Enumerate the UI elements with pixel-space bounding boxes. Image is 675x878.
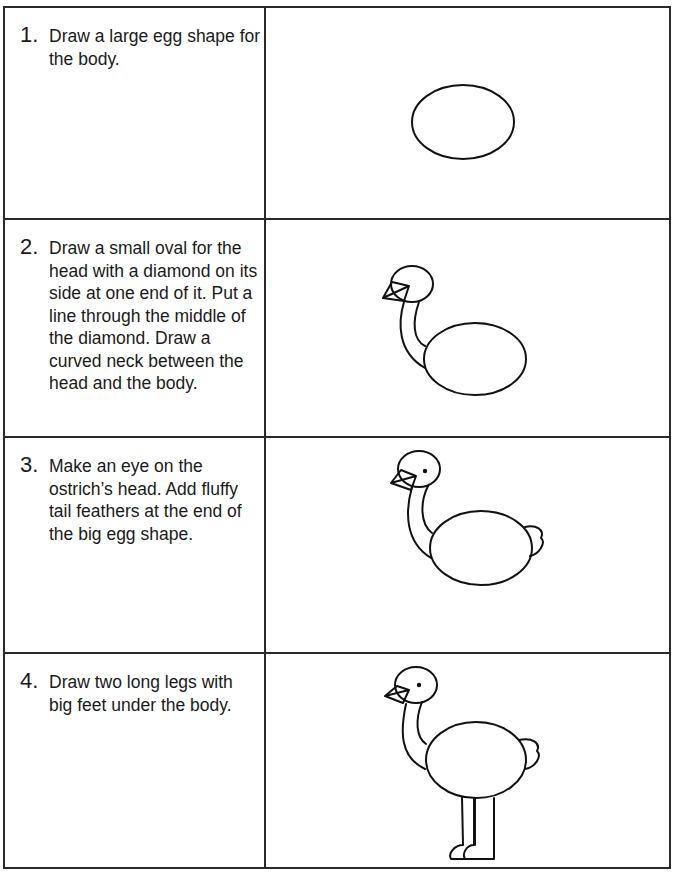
right-leg-foot — [464, 798, 494, 859]
egg-body-illustration — [266, 8, 669, 218]
step-illustration-cell — [266, 438, 669, 652]
head-oval — [395, 667, 437, 703]
step-number: 1. — [20, 22, 38, 48]
body-shape — [426, 722, 526, 798]
body-shape — [424, 323, 526, 395]
step-illustration-cell — [266, 654, 669, 867]
step-text: Make an eye on the ostrich’s head. Add f… — [49, 455, 261, 545]
tail-feathers — [525, 526, 543, 556]
step-number: 2. — [20, 234, 38, 260]
neck-front — [401, 302, 425, 368]
step-row-4: 4. Draw two long legs with big feet unde… — [5, 654, 669, 867]
eye-tail-illustration — [266, 438, 669, 652]
step-row-3: 3. Make an eye on the ostrich’s head. Ad… — [5, 438, 669, 654]
step-text: Draw a large egg shape for the body. — [49, 25, 261, 70]
neck-front — [408, 487, 431, 558]
step-text: Draw a small oval for the head with a di… — [49, 237, 261, 395]
drawing-instructions-sheet: 1. Draw a large egg shape for the body. … — [3, 6, 671, 869]
eye-dot — [417, 683, 421, 687]
step-text: Draw two long legs with big feet under t… — [49, 671, 261, 716]
eye-dot — [423, 469, 427, 473]
body-shape — [430, 511, 532, 585]
neck-back — [417, 702, 426, 744]
step-instruction-cell: 1. Draw a large egg shape for the body. — [5, 8, 266, 218]
step-instruction-cell: 2. Draw a small oval for the head with a… — [5, 220, 266, 436]
head-oval — [398, 451, 440, 487]
step-instruction-cell: 3. Make an eye on the ostrich’s head. Ad… — [5, 438, 266, 652]
step-row-1: 1. Draw a large egg shape for the body. — [5, 8, 669, 220]
step-number: 3. — [20, 452, 38, 478]
neck-back — [415, 302, 425, 346]
neck-back — [422, 486, 432, 533]
complete-ostrich-illustration — [266, 654, 669, 867]
step-instruction-cell: 4. Draw two long legs with big feet unde… — [5, 654, 266, 867]
step-row-2: 2. Draw a small oval for the head with a… — [5, 220, 669, 438]
head-neck-body-illustration — [266, 220, 669, 436]
egg-body-shape — [412, 85, 514, 159]
step-illustration-cell — [266, 8, 669, 218]
neck-front — [403, 704, 425, 769]
step-illustration-cell — [266, 220, 669, 436]
beak-diamond — [383, 282, 409, 301]
step-number: 4. — [20, 668, 38, 694]
